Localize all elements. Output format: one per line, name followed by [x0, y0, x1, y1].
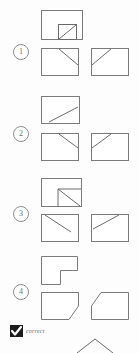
figure-option-1a[interactable]	[41, 48, 79, 76]
figure-option-3a[interactable]	[41, 214, 79, 242]
item-number-3: 3	[13, 206, 29, 222]
figure-prompt-4[interactable]	[41, 256, 78, 285]
annotation-row: correct	[10, 325, 45, 337]
checked-checkbox-icon[interactable]	[10, 325, 23, 337]
problem-item-1: 1	[0, 0, 139, 85]
problem-item-4: 4	[0, 240, 139, 320]
figure-option-2b[interactable]	[91, 133, 129, 161]
figure-option-4a[interactable]	[41, 292, 79, 320]
figure-option-1b[interactable]	[91, 48, 129, 76]
problem-item-3: 3	[0, 162, 139, 244]
figure-prompt-3[interactable]	[41, 178, 82, 207]
figure-prompt-2[interactable]	[41, 96, 80, 124]
item-number-1: 1	[13, 44, 29, 60]
figure-prompt-1[interactable]	[41, 10, 83, 40]
figure-option-3b[interactable]	[91, 214, 129, 242]
item-number-2: 2	[13, 126, 29, 142]
item-number-4: 4	[13, 284, 29, 300]
problem-item-2: 2	[0, 83, 139, 165]
figure-option-4b[interactable]	[91, 292, 129, 320]
figure-option-2a[interactable]	[41, 133, 79, 161]
worksheet-page: 1 2	[0, 0, 139, 353]
annotation-text: correct	[26, 328, 45, 334]
figure-partial-peak	[77, 337, 133, 353]
